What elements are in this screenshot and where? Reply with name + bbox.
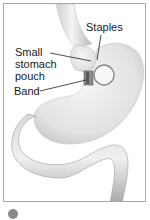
stomach-illustration (4, 4, 146, 202)
stoma-ring (94, 65, 114, 85)
label-band: Band (14, 85, 40, 97)
label-pouch-line3: pouch (15, 70, 57, 82)
small-stomach-pouch (70, 45, 96, 72)
label-staples: Staples (86, 21, 123, 33)
label-pouch-line2: stomach (15, 58, 57, 70)
illustration-frame: Staples Small stomach pouch Band (3, 3, 146, 202)
circled-number-icon (8, 209, 18, 219)
figure-caption (4, 209, 144, 219)
label-small-stomach-pouch: Small stomach pouch (15, 46, 57, 82)
label-pouch-line1: Small (15, 46, 57, 58)
